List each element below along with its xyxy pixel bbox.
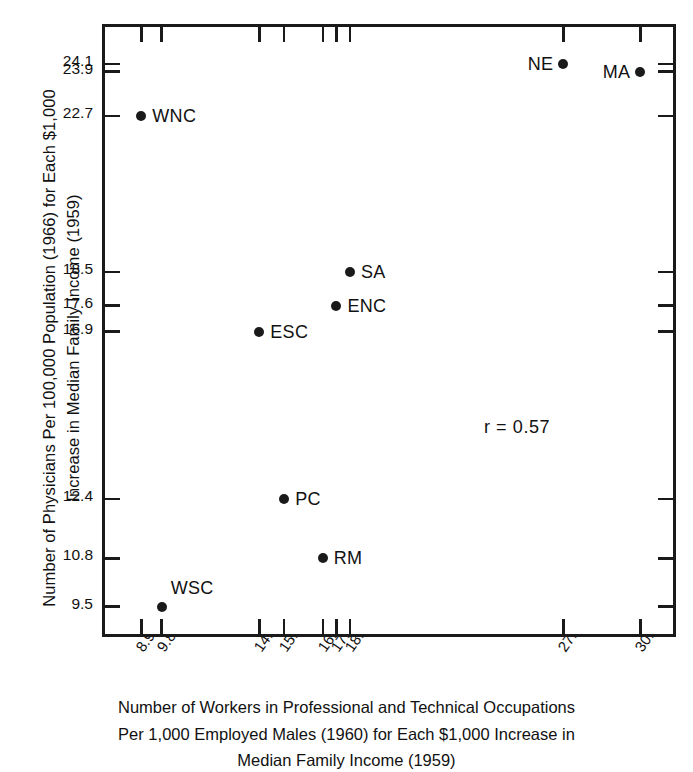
y-axis-tick bbox=[105, 557, 120, 560]
x-axis-title-line-2: Per 1,000 Employed Males (1960) for Each… bbox=[0, 721, 693, 748]
x-axis-tick-top bbox=[160, 27, 163, 42]
y-axis-tick bbox=[105, 271, 120, 274]
x-axis-tick bbox=[335, 619, 338, 634]
y-axis-title-line-2: Increase in Median Family Income (1959) bbox=[62, 194, 86, 501]
y-axis-tick bbox=[105, 330, 120, 333]
y-axis-tick bbox=[105, 498, 120, 501]
x-axis-tick-top bbox=[349, 27, 352, 42]
data-point-marker bbox=[635, 67, 645, 77]
scatter-plot-figure: Number of Physicians Per 100,000 Populat… bbox=[0, 0, 693, 772]
x-axis-tick-top bbox=[562, 27, 565, 42]
y-axis-tick bbox=[105, 605, 120, 608]
y-axis-tick bbox=[105, 115, 120, 118]
y-axis-tick-right bbox=[658, 304, 673, 307]
data-point-marker bbox=[318, 553, 328, 563]
x-axis-tick bbox=[562, 619, 565, 634]
y-axis-tick-right bbox=[658, 70, 673, 73]
data-point-label: SA bbox=[361, 262, 386, 283]
y-axis-tick-right bbox=[658, 63, 673, 66]
data-point-marker bbox=[157, 602, 167, 612]
data-point-label: RM bbox=[334, 548, 363, 569]
y-axis-tick-right bbox=[658, 330, 673, 333]
data-point-label: WNC bbox=[152, 106, 196, 127]
data-point-label: ENC bbox=[347, 295, 386, 316]
data-point-label: WSC bbox=[171, 577, 214, 598]
data-point-marker bbox=[331, 301, 341, 311]
x-axis-tick bbox=[349, 619, 352, 634]
x-axis-tick-top bbox=[283, 27, 286, 42]
x-axis-tick bbox=[283, 619, 286, 634]
y-axis-tick-right bbox=[658, 498, 673, 501]
x-axis-tick-top bbox=[335, 27, 338, 42]
x-axis-tick bbox=[639, 619, 642, 634]
x-axis-tick-top bbox=[639, 27, 642, 42]
data-point-marker bbox=[279, 494, 289, 504]
x-axis-tick bbox=[322, 619, 325, 634]
x-axis-tick bbox=[160, 619, 163, 634]
x-axis-title: Number of Workers in Professional and Te… bbox=[0, 694, 693, 772]
y-axis-tick-right bbox=[658, 557, 673, 560]
x-axis-title-line-1: Number of Workers in Professional and Te… bbox=[0, 694, 693, 721]
x-axis-tick bbox=[258, 619, 261, 634]
data-point-label: NE bbox=[528, 54, 554, 75]
data-point-marker bbox=[345, 267, 355, 277]
data-point-label: MA bbox=[603, 61, 631, 82]
y-axis-tick bbox=[105, 70, 120, 73]
data-point-label: PC bbox=[295, 488, 321, 509]
x-axis-tick-top bbox=[258, 27, 261, 42]
y-axis-tick-right bbox=[658, 115, 673, 118]
x-axis-tick-top bbox=[322, 27, 325, 42]
y-axis-title-line-1: Number of Physicians Per 100,000 Populat… bbox=[38, 89, 62, 607]
y-axis-tick bbox=[105, 63, 120, 66]
plot-area: NEMAWNCSAENCESCPCRMWSC r = 0.57 bbox=[102, 24, 676, 637]
x-axis-tick bbox=[140, 619, 143, 634]
data-point-label: ESC bbox=[270, 321, 308, 342]
correlation-annotation: r = 0.57 bbox=[484, 417, 550, 438]
y-axis-title: Number of Physicians Per 100,000 Populat… bbox=[34, 18, 90, 678]
x-axis-title-line-3: Median Family Income (1959) bbox=[0, 747, 693, 772]
x-axis-tick-top bbox=[140, 27, 143, 42]
data-point-marker bbox=[254, 327, 264, 337]
data-point-marker bbox=[136, 111, 146, 121]
y-axis-tick bbox=[105, 304, 120, 307]
y-axis-tick-right bbox=[658, 271, 673, 274]
y-axis-tick-right bbox=[658, 605, 673, 608]
data-point-marker bbox=[558, 59, 568, 69]
